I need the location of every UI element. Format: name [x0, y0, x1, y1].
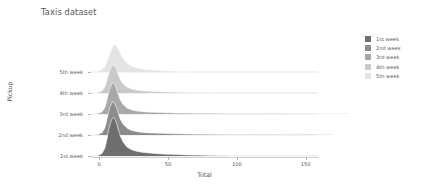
legend-item-label: 2nd week	[376, 45, 401, 51]
legend-swatch-icon	[364, 72, 372, 80]
legend: 1st week2nd week3rd week4th week5th week	[364, 34, 424, 81]
ridge-series-3rd-week	[94, 82, 358, 114]
legend-item[interactable]: 4th week	[364, 62, 424, 71]
chart-figure: Taxis dataset Pickup 5th week4th week3rd…	[0, 0, 427, 186]
x-axis-line	[91, 157, 318, 158]
x-axis-tick-label: 100	[232, 161, 242, 167]
x-axis-tick-mark	[306, 157, 307, 160]
ridge-series-2nd-week	[94, 101, 346, 135]
legend-swatch-icon	[364, 35, 372, 43]
ridge-area	[94, 118, 234, 156]
legend-item[interactable]: 1st week	[364, 34, 424, 43]
legend-swatch-icon	[364, 63, 372, 71]
x-axis-title: Total	[0, 171, 409, 178]
x-axis-tick-mark	[168, 157, 169, 160]
legend-swatch-icon	[364, 53, 372, 61]
x-axis-tick-label: 150	[301, 161, 311, 167]
x-axis-tick-mark	[237, 157, 238, 160]
x-axis-tick-label: 50	[165, 161, 172, 167]
legend-item-label: 4th week	[376, 64, 399, 70]
legend-swatch-icon	[364, 44, 372, 52]
x-axis-tick-label: 0	[98, 161, 101, 167]
ridge-outline	[94, 101, 346, 135]
x-axis-tick-mark	[99, 157, 100, 160]
ridge-outline	[94, 82, 358, 114]
ridgeline-plot	[0, 0, 427, 186]
legend-item[interactable]: 5th week	[364, 72, 424, 81]
legend-item[interactable]: 3rd week	[364, 53, 424, 62]
plot-area	[91, 35, 318, 156]
legend-item-label: 1st week	[376, 36, 399, 42]
ridge-area	[94, 82, 358, 114]
legend-item-label: 5th week	[376, 73, 399, 79]
legend-item-label: 3rd week	[376, 54, 399, 60]
ridge-series-5th-week	[94, 45, 187, 72]
legend-item[interactable]: 2nd week	[364, 43, 424, 52]
ridge-series-1st-week	[94, 118, 234, 156]
